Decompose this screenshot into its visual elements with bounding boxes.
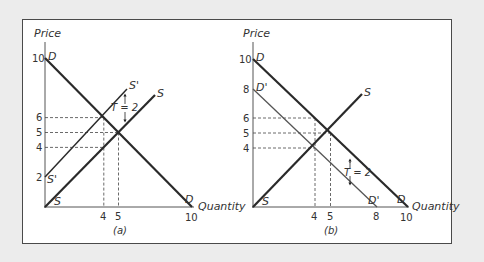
panel-a-tax-label: T = 2 — [111, 102, 138, 113]
panel-b-x-axis-label: Quantity — [412, 200, 460, 213]
panel-a: Price Quantity T = 2 10 6 5 4 2 4 5 — [32, 27, 246, 236]
panel-b-y-tick: 4 — [243, 143, 249, 154]
figure-svg: Price Quantity T = 2 10 6 5 4 2 4 5 — [0, 0, 484, 262]
panel-b-caption: (b) — [324, 225, 338, 236]
panel-b-y-tick: 10 — [239, 54, 252, 65]
panel-b-y-axis-label: Price — [243, 27, 270, 40]
panel-a-y-tick: 5 — [36, 127, 42, 138]
panel-b-x-tick: 5 — [327, 211, 333, 222]
panel-a-y-tick: 10 — [32, 53, 45, 64]
panel-a-x-tick: 4 — [100, 211, 106, 222]
panel-a-reference-lines — [45, 118, 119, 207]
panel-b-x-tick: 10 — [400, 212, 413, 223]
panel-a-supply-shifted-label: S' — [129, 79, 139, 92]
panel-a-demand-label: D — [48, 50, 56, 63]
panel-b-y-tick: 5 — [243, 128, 249, 139]
panel-a-x-tick: 10 — [185, 212, 198, 223]
panel-a-y-tick: 2 — [36, 172, 42, 183]
panel-b-supply-origin-label: S — [262, 195, 269, 208]
panel-a-supply-origin-label: S — [54, 195, 61, 208]
panel-a-supply-label: S — [157, 87, 164, 100]
panel-b-x-tick: 8 — [373, 211, 379, 222]
panel-b-y-tick: 6 — [243, 113, 249, 124]
panel-b-demand-shifted-label: D' — [256, 81, 268, 94]
panel-a-y-tick: 6 — [36, 112, 42, 123]
panel-a-y-axis-label: Price — [34, 27, 61, 40]
panel-b: Price Quantity T = 2 10 8 6 5 4 4 5 8 10… — [239, 27, 460, 236]
panel-a-y-tick: 4 — [36, 142, 42, 153]
panel-a-supply-curve — [45, 95, 155, 207]
panel-a-demand-label: D — [185, 193, 193, 206]
panel-b-demand-label: D — [256, 51, 264, 64]
panel-b-demand-shifted-label: D' — [368, 194, 380, 207]
panel-b-supply-label: S — [364, 86, 371, 99]
panel-b-x-tick: 4 — [311, 211, 317, 222]
panel-a-x-axis-label: Quantity — [198, 200, 246, 213]
panel-b-demand-label: D — [397, 193, 405, 206]
panel-b-tax-label: T = 2 — [344, 167, 371, 178]
panel-a-x-tick: 5 — [115, 211, 121, 222]
panel-b-y-tick: 8 — [243, 84, 249, 95]
panel-a-caption: (a) — [113, 225, 127, 236]
panel-a-supply-shifted-intercept-label: S' — [47, 173, 57, 186]
